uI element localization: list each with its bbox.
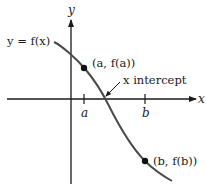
- function-label: y = f(x): [6, 34, 50, 48]
- tick-label-a: a: [81, 106, 88, 120]
- point-a-fa: [81, 65, 87, 71]
- point-label-b-fb: (b, f(b)): [153, 154, 197, 168]
- function-graph-diagram: y x y = f(x) a b (a, f(a)) (b, f(b)) x i…: [0, 0, 206, 188]
- x-intercept-pointer: [106, 82, 120, 96]
- tick-label-b: b: [142, 106, 150, 120]
- x-intercept-label: x intercept: [123, 73, 187, 87]
- y-axis-label: y: [67, 3, 75, 17]
- x-axis-label: x: [198, 92, 205, 106]
- point-b-fb: [142, 158, 148, 164]
- point-label-a-fa: (a, f(a)): [92, 56, 135, 70]
